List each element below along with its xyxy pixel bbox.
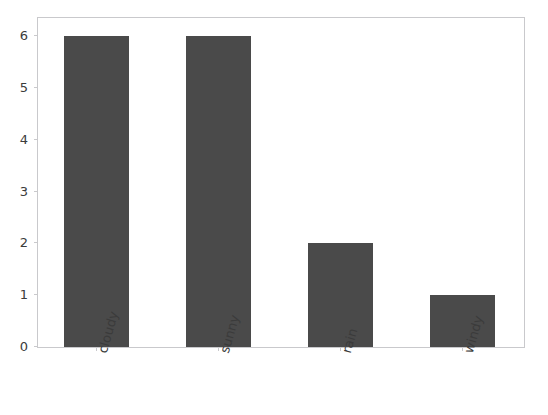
y-tick-label-0: 0 [20, 340, 28, 353]
bar-chart-figure: 0 1 2 3 4 5 6 cloudy sunny [0, 0, 548, 415]
y-axis-tick-labels: 0 1 2 3 4 5 6 [0, 17, 28, 348]
y-tick-label-1: 1 [20, 288, 28, 301]
y-tick-label-4: 4 [20, 132, 28, 145]
x-axis-tick-labels: cloudy sunny rain windy [37, 348, 525, 415]
plot-area [37, 17, 525, 348]
bar-sunny [186, 36, 251, 347]
y-tick-label-3: 3 [20, 184, 28, 197]
y-tick-label-5: 5 [20, 80, 28, 93]
y-tick-label-2: 2 [20, 236, 28, 249]
bar-cloudy [64, 36, 129, 347]
bar-rain [308, 243, 373, 347]
bar-windy [430, 295, 495, 347]
y-tick-label-6: 6 [20, 29, 28, 42]
